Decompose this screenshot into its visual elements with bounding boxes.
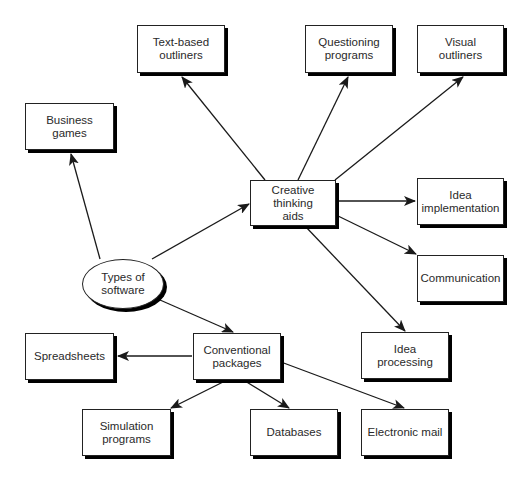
node-types-of-software: Types of software <box>82 259 164 309</box>
edge-creative-to-questioning <box>298 77 348 180</box>
node-communication: Communication <box>417 255 504 302</box>
node-text-based-outliners: Text-based outliners <box>137 25 225 73</box>
edge-creative-to-text-outliners <box>182 77 265 180</box>
node-visual-outliners: Visual outliners <box>417 25 504 73</box>
edge-types-to-conventional <box>160 300 233 332</box>
edge-types-to-business-games <box>71 154 100 259</box>
edge-types-to-creative <box>152 204 249 259</box>
node-label: Conventional packages <box>203 344 270 370</box>
node-label: Visual outliners <box>422 36 499 62</box>
node-creative-thinking-aids: Creative thinking aids <box>250 180 336 226</box>
node-label: Types of software <box>101 271 144 297</box>
node-label: Simulation programs <box>100 420 154 446</box>
node-label: Questioning programs <box>318 36 379 62</box>
node-conventional-packages: Conventional packages <box>193 333 281 380</box>
edge-creative-to-communication <box>336 215 416 254</box>
node-simulation-programs: Simulation programs <box>82 409 171 456</box>
edge-conventional-to-simulation <box>171 381 225 408</box>
node-label: Business games <box>30 114 109 140</box>
node-idea-implementation: Idea implementation <box>417 178 504 225</box>
node-label: Databases <box>267 426 322 439</box>
node-label: Idea processing <box>366 343 444 369</box>
edge-creative-to-visual-outliners <box>335 77 463 180</box>
node-spreadsheets: Spreadsheets <box>25 333 114 380</box>
node-label: Creative thinking aids <box>255 184 331 223</box>
edge-conventional-to-databases <box>245 381 289 408</box>
node-label: Idea implementation <box>422 189 500 215</box>
node-questioning-programs: Questioning programs <box>305 25 393 73</box>
node-label: Spreadsheets <box>34 350 105 363</box>
node-label: Text-based outliners <box>153 36 209 62</box>
node-idea-processing: Idea processing <box>361 332 449 379</box>
node-business-games: Business games <box>25 103 114 150</box>
node-databases: Databases <box>250 409 338 456</box>
node-label: Communication <box>421 272 501 285</box>
node-electronic-mail: Electronic mail <box>361 409 449 456</box>
node-label: Electronic mail <box>368 426 443 439</box>
figure-caption-cropped <box>26 477 506 483</box>
